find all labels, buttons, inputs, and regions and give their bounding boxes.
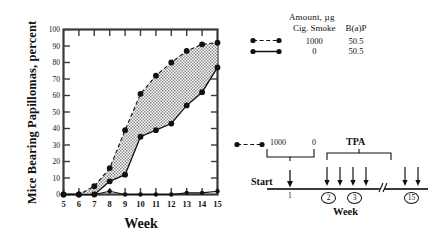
data-point: [107, 165, 113, 171]
timeline-dose-key-icon: [234, 142, 264, 147]
y-tick-label: 80: [53, 58, 61, 67]
data-point: [123, 192, 127, 196]
legend-row: 0 50.5: [244, 46, 372, 57]
legend-value-cig-smoke: 1000: [288, 36, 341, 47]
y-tick-labels: 0 10 20 30 40 50 60 70 80 90 100: [49, 25, 61, 199]
legend-row: 1000 50.5: [244, 36, 372, 47]
data-point: [77, 192, 81, 196]
data-point: [153, 73, 159, 79]
data-point: [215, 189, 219, 193]
treatment-timeline-diagram: 1000 0 Start 1 TPA 2 3 15 Week: [232, 136, 436, 240]
data-point: [168, 121, 174, 127]
x-tick-labels: 5 6 7 8 9 10 11 12 13 14 15: [61, 199, 221, 209]
timeline-week-mark: 15: [404, 192, 419, 204]
y-tick-label: 30: [53, 141, 61, 150]
x-tick-label: 13: [182, 199, 191, 209]
data-point: [91, 183, 97, 189]
chart-legend: Amount, µg Cig. Smoke B(a)P 1000 50.5: [244, 12, 372, 57]
x-tick-label: 6: [77, 199, 81, 209]
y-tick-label: 20: [53, 157, 61, 166]
x-axis-title: Week: [56, 216, 226, 232]
legend-key-cell: [244, 46, 288, 57]
y-tick-label: 0: [56, 190, 60, 199]
x-tick-label: 12: [167, 199, 176, 209]
data-point: [153, 127, 159, 133]
x-tick-label: 5: [61, 199, 65, 209]
timeline-start-label: Start: [251, 176, 273, 187]
data-point: [215, 65, 221, 71]
y-tick-label: 90: [53, 42, 61, 51]
data-point: [185, 191, 189, 195]
x-tick-label: 14: [198, 199, 207, 209]
timeline-week-mark: 3: [347, 192, 362, 204]
y-tick-label: 10: [53, 174, 61, 183]
y-axis-title: Mice Bearing Papillomas, percent: [25, 18, 40, 208]
legend-value-cig-smoke: 0: [288, 46, 341, 57]
x-tick-label: 7: [92, 199, 97, 209]
data-point: [169, 192, 173, 196]
legend-value-bap: 50.5: [341, 36, 372, 47]
data-point: [61, 192, 65, 196]
y-tick-label: 40: [53, 124, 61, 133]
timeline-dose-high-label: 1000: [270, 138, 286, 147]
legend-value-bap: 50.5: [341, 46, 372, 57]
data-point: [184, 103, 190, 109]
legend-table: Cig. Smoke B(a)P 1000 50.5: [244, 23, 372, 57]
x-tick-label: 15: [213, 199, 222, 209]
solid-line-marker-icon: [249, 47, 283, 56]
data-point: [108, 189, 112, 193]
legend-header-row: Cig. Smoke B(a)P: [244, 23, 372, 35]
data-point: [199, 41, 205, 47]
y-tick-label: 70: [53, 75, 61, 84]
data-point: [168, 60, 174, 66]
y-tick-label: 50: [53, 108, 61, 117]
data-point: [122, 127, 128, 133]
data-point: [215, 40, 221, 46]
data-point: [92, 192, 96, 196]
timeline-tpa-label: TPA: [346, 136, 365, 147]
data-point: [122, 172, 128, 178]
data-point: [138, 192, 142, 196]
legend-col-header-cig-smoke: Cig. Smoke: [288, 23, 341, 35]
legend-col-header-bap: B(a)P: [341, 23, 372, 35]
data-point: [199, 89, 205, 95]
data-point: [138, 134, 144, 140]
x-tick-label: 11: [152, 199, 160, 209]
x-tick-label: 9: [123, 199, 127, 209]
y-tick-label: 100: [49, 25, 61, 34]
timeline-dose-brace: [267, 149, 314, 161]
data-point: [138, 91, 144, 97]
x-tick-label: 10: [136, 199, 145, 209]
legend-amount-header: Amount, µg: [252, 12, 372, 23]
dashed-line-marker-icon: [249, 36, 283, 45]
timeline-dose-low-label: 0: [312, 138, 316, 147]
data-point: [107, 178, 113, 184]
timeline-svg: [232, 136, 436, 240]
legend-key-cell: [244, 36, 288, 47]
timeline-week-one-label: 1: [288, 191, 292, 200]
data-point: [200, 191, 204, 195]
data-point: [184, 48, 190, 54]
timeline-tpa-brace: [327, 149, 391, 160]
timeline-week-mark: 2: [321, 192, 336, 204]
data-point: [154, 192, 158, 196]
legend-key-header: [244, 23, 288, 35]
timeline-axis-label: Week: [333, 206, 358, 217]
figure-panel: 0 10 20 30 40 50 60 70 80 90 100 5 6 7 8…: [0, 0, 438, 242]
timeline-start-arrow-icon: [287, 170, 293, 188]
y-tick-label: 60: [53, 91, 61, 100]
x-tick-label: 8: [108, 199, 112, 209]
timeline-tpa-arrows: [324, 167, 420, 186]
